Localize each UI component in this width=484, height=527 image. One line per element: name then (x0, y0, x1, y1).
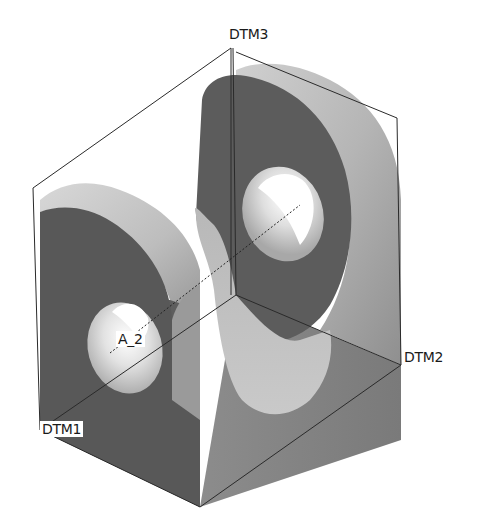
axis-label-a2[interactable]: A_2 (116, 331, 145, 347)
datum-label-dtm3[interactable]: DTM3 (229, 26, 268, 42)
datum-label-dtm1[interactable]: DTM1 (40, 421, 83, 437)
cad-viewport[interactable]: DTM3 DTM2 DTM1 A_2 (0, 0, 484, 527)
part-model (0, 0, 484, 527)
datum-label-dtm2[interactable]: DTM2 (404, 349, 443, 365)
